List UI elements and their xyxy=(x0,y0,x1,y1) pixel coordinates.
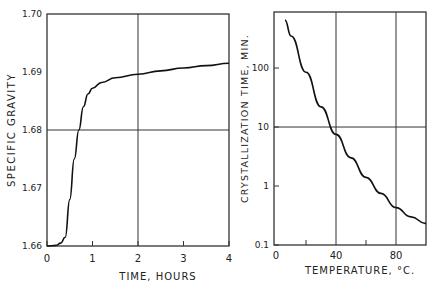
x-tick-label: 2 xyxy=(135,253,141,264)
y-tick-label: 0.1 xyxy=(255,240,269,250)
y-tick-label: 10 xyxy=(258,122,270,132)
y-tick-label: 1.67 xyxy=(22,183,42,193)
y-axis-label: CRYSTALLIZATION TIME, MIN. xyxy=(239,34,250,203)
y-axis-label: SPECIFIC GRAVITY xyxy=(6,73,17,187)
crystallization-time-chart: 040800.1110100TEMPERATURE, °C.CRYSTALLIZ… xyxy=(239,12,426,276)
x-tick-label: 80 xyxy=(390,250,403,261)
x-tick-label: 3 xyxy=(180,253,186,264)
x-axis-label: TIME, HOURS xyxy=(118,271,196,282)
x-tick-label: 0 xyxy=(273,250,279,261)
x-tick-label: 4 xyxy=(226,253,232,264)
figure: 012341.661.671.681.691.70TIME, HOURSSPEC… xyxy=(0,0,434,285)
x-tick-label: 40 xyxy=(330,250,343,261)
x-tick-label: 1 xyxy=(89,253,95,264)
y-tick-label: 100 xyxy=(252,63,269,73)
specific-gravity-chart: 012341.661.671.681.691.70TIME, HOURSSPEC… xyxy=(6,9,232,282)
x-tick-label: 0 xyxy=(44,253,50,264)
y-tick-label: 1 xyxy=(263,181,269,191)
y-tick-label: 1.66 xyxy=(22,241,42,251)
y-tick-label: 1.70 xyxy=(22,9,42,19)
data-curve xyxy=(285,20,426,224)
y-tick-label: 1.68 xyxy=(22,125,42,135)
x-axis-label: TEMPERATURE, °C. xyxy=(304,265,415,276)
y-tick-label: 1.69 xyxy=(22,67,42,77)
